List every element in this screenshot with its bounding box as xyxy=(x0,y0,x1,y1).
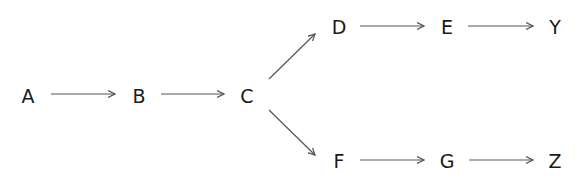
node-f: F xyxy=(334,152,345,171)
node-c: C xyxy=(240,87,253,106)
flow-diagram: ABCDEYFGZ xyxy=(0,0,584,179)
arrow-c-to-d xyxy=(269,34,315,79)
edges-layer xyxy=(0,0,584,179)
node-g: G xyxy=(440,152,455,171)
arrow-c-to-f xyxy=(269,110,315,155)
node-b: B xyxy=(132,87,145,106)
node-y: Y xyxy=(549,18,561,37)
node-a: A xyxy=(22,87,35,106)
node-e: E xyxy=(441,18,453,37)
node-z: Z xyxy=(548,152,561,171)
node-d: D xyxy=(332,18,347,37)
